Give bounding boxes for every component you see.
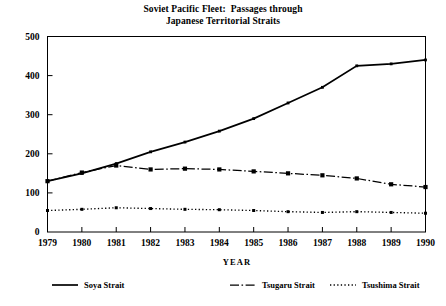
x-tick-label-1981: 1981 <box>107 238 126 248</box>
data-point-marker <box>184 141 187 144</box>
data-point-marker <box>80 170 84 174</box>
x-tick-label-1979: 1979 <box>38 238 57 248</box>
data-point-marker <box>320 173 324 177</box>
legend-label-soya-strait: Soya Strait <box>84 280 125 290</box>
data-point-marker <box>423 185 427 189</box>
chart-figure: Soviet Pacific Fleet: Passages through J… <box>0 0 446 306</box>
data-point-marker <box>424 212 427 215</box>
data-point-marker <box>252 169 256 173</box>
data-point-marker <box>287 210 290 213</box>
data-point-marker <box>389 182 393 186</box>
data-point-marker <box>424 59 427 62</box>
data-point-marker <box>286 171 290 175</box>
data-point-marker <box>252 117 255 120</box>
data-point-marker <box>218 208 221 211</box>
x-tick-label-1989: 1989 <box>382 238 401 248</box>
data-point-marker <box>390 62 393 65</box>
x-tick-label-1980: 1980 <box>72 238 91 248</box>
data-point-marker <box>148 167 152 171</box>
x-tick-label-1990: 1990 <box>416 238 435 248</box>
series-line-tsushima-strait <box>48 208 426 213</box>
legend-label-tsugaru-strait: Tsugaru Strait <box>262 280 315 290</box>
data-point-marker <box>149 207 152 210</box>
y-axis: 0100200300400500 <box>25 32 52 238</box>
y-tick-label-200: 200 <box>25 149 40 159</box>
x-axis-label: YEAR <box>223 257 252 267</box>
data-point-marker <box>114 163 118 167</box>
data-point-marker <box>80 208 83 211</box>
x-tick-label-1986: 1986 <box>279 238 298 248</box>
data-point-marker <box>46 209 49 212</box>
y-tick-label-300: 300 <box>25 110 40 120</box>
data-point-marker <box>355 64 358 67</box>
x-tick-label-1987: 1987 <box>313 238 332 248</box>
data-point-marker <box>355 176 359 180</box>
x-tick-label-1982: 1982 <box>141 238 160 248</box>
legend-label-tsushima-strait: Tsushima Strait <box>362 280 420 290</box>
x-axis: 1979198019811982198319841985198619871988… <box>38 227 435 248</box>
x-tick-label-1983: 1983 <box>175 238 194 248</box>
y-tick-label-0: 0 <box>35 227 40 237</box>
y-tick-label-500: 500 <box>25 32 40 42</box>
data-point-marker <box>45 179 49 183</box>
series-line-soya-strait <box>48 60 426 181</box>
data-point-marker <box>287 102 290 105</box>
data-point-marker <box>217 167 221 171</box>
data-point-marker <box>390 211 393 214</box>
data-point-marker <box>183 208 186 211</box>
chart-canvas: 0100200300400500 19791980198119821983198… <box>0 0 446 306</box>
series-line-tsugaru-strait <box>48 166 426 188</box>
data-series-group <box>45 59 427 215</box>
x-tick-label-1984: 1984 <box>210 238 229 248</box>
x-tick-label-1985: 1985 <box>244 238 263 248</box>
data-point-marker <box>355 210 358 213</box>
data-point-marker <box>252 209 255 212</box>
chart-legend: Soya StraitTsugaru StraitTsushima Strait <box>52 280 420 290</box>
y-tick-label-400: 400 <box>25 71 40 81</box>
data-point-marker <box>321 211 324 214</box>
data-point-marker <box>115 206 118 209</box>
data-point-marker <box>218 130 221 133</box>
data-point-marker <box>183 167 187 171</box>
x-tick-label-1988: 1988 <box>347 238 366 248</box>
data-point-marker <box>321 86 324 89</box>
y-tick-label-100: 100 <box>25 188 40 198</box>
data-point-marker <box>149 150 152 153</box>
